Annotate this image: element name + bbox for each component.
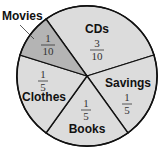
savings-denominator: 5 bbox=[124, 104, 130, 116]
books-numerator: 1 bbox=[83, 97, 89, 109]
label-savings: Savings bbox=[105, 76, 151, 90]
movies-denominator: 10 bbox=[43, 45, 55, 57]
books-denominator: 5 bbox=[83, 110, 89, 122]
movies-numerator: 1 bbox=[45, 32, 51, 44]
label-clothes: Clothes bbox=[22, 90, 66, 104]
pie-chart: Movies 1 10 CDs 3 10 Savings 1 5 1 5 Boo… bbox=[0, 0, 159, 147]
clothes-numerator: 1 bbox=[40, 68, 46, 80]
label-cds: CDs bbox=[85, 22, 109, 36]
cds-numerator: 3 bbox=[94, 37, 100, 49]
label-books: Books bbox=[69, 122, 106, 136]
savings-numerator: 1 bbox=[124, 91, 130, 103]
cds-denominator: 10 bbox=[92, 50, 104, 62]
label-movies: Movies bbox=[2, 9, 43, 23]
